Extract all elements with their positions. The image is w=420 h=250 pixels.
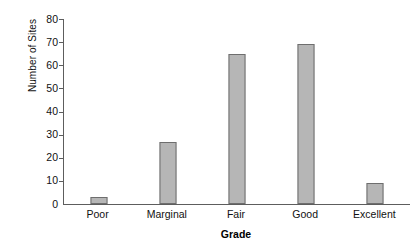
bar-good[interactable] bbox=[298, 44, 315, 204]
x-tick-label: Poor bbox=[63, 208, 132, 220]
x-tick-label: Fair bbox=[201, 208, 270, 220]
bar-fair[interactable] bbox=[228, 54, 245, 204]
x-tick-label: Good bbox=[271, 208, 340, 220]
bar-series bbox=[64, 19, 410, 204]
y-tick-label: 40 bbox=[32, 106, 58, 116]
bar-chart: Number of Sites 80706050403020100 PoorMa… bbox=[0, 0, 420, 250]
y-tick-label: 0 bbox=[32, 199, 58, 209]
y-tick-label: 80 bbox=[32, 14, 58, 24]
y-tick-label: 50 bbox=[32, 83, 58, 93]
bar-poor[interactable] bbox=[90, 197, 107, 204]
bar-slot bbox=[133, 19, 202, 204]
x-axis-tick-labels: PoorMarginalFairGoodExcellent bbox=[63, 208, 409, 224]
y-tick-label: 20 bbox=[32, 152, 58, 162]
plot-area bbox=[63, 19, 410, 205]
y-tick-label: 10 bbox=[32, 175, 58, 185]
bar-slot bbox=[272, 19, 341, 204]
y-axis-tick-labels: 80706050403020100 bbox=[30, 0, 58, 250]
x-axis-title: Grade bbox=[63, 228, 409, 240]
bar-marginal[interactable] bbox=[159, 142, 176, 204]
bar-slot bbox=[202, 19, 271, 204]
y-tick-label: 60 bbox=[32, 60, 58, 70]
x-tick-label: Excellent bbox=[340, 208, 409, 220]
bar-slot bbox=[64, 19, 133, 204]
y-tick-label: 30 bbox=[32, 129, 58, 139]
bar-excellent[interactable] bbox=[367, 183, 384, 204]
x-tick-label: Marginal bbox=[132, 208, 201, 220]
bar-slot bbox=[341, 19, 410, 204]
y-tick-label: 70 bbox=[32, 37, 58, 47]
